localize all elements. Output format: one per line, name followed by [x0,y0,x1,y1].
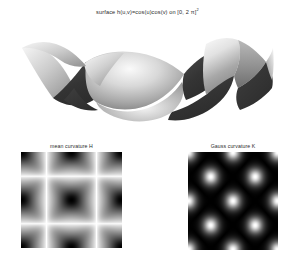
figure-canvas: surface h(u,v)=cos(u)cos(v) on [0, 2π]2 [0,0,295,260]
panel-mean-curvature-image [21,152,122,248]
mean-curvature-heatmap [21,152,122,248]
panel-mean-curvature-label: mean curvature H [21,143,122,149]
figure-title-exponent: 2 [197,7,199,12]
panel-gauss-curvature-label: Gauss curvature K [188,143,278,149]
figure-title-prefix: surface h(u,v)=cos(u)cos(v) on [0, 2 [96,9,189,15]
panel-gauss-curvature-image [188,152,278,250]
figure-title: surface h(u,v)=cos(u)cos(v) on [0, 2π]2 [0,7,295,15]
panel-gauss-curvature: Gauss curvature K [188,152,278,250]
surface-plot-svg [20,26,275,128]
surface-plot [20,26,275,128]
gauss-curvature-heatmap [188,152,278,250]
panel-mean-curvature: mean curvature H [21,152,122,248]
